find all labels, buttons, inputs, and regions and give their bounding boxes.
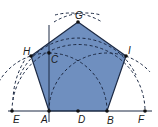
pentagon-construction-diagram: E A D B F G H I C (0, 0, 158, 127)
label-i: I (128, 45, 131, 56)
point-a (47, 109, 51, 113)
point-f (143, 109, 147, 113)
label-e: E (13, 114, 20, 125)
point-b (105, 109, 109, 113)
label-f: F (138, 114, 145, 125)
label-g: G (75, 10, 83, 21)
label-c: C (51, 54, 59, 65)
pentagon-shape (31, 22, 126, 111)
point-e (10, 109, 14, 113)
label-h: H (23, 46, 31, 57)
label-b: B (107, 115, 114, 126)
point-d (76, 109, 80, 113)
label-a: A (40, 114, 48, 125)
diagram-canvas: E A D B F G H I C (0, 0, 158, 127)
label-d: D (78, 114, 85, 125)
